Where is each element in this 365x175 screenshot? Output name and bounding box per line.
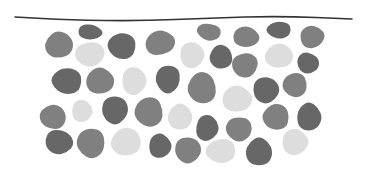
particle-medium xyxy=(263,104,289,130)
particle-dark xyxy=(246,138,272,166)
particle-light xyxy=(74,41,107,69)
particle-light xyxy=(205,138,237,164)
particle-medium xyxy=(175,137,201,163)
particle-dark xyxy=(293,49,322,77)
particle-medium xyxy=(185,70,218,106)
particle-medium xyxy=(43,29,75,59)
particle-light xyxy=(122,67,146,95)
diagram-canvas xyxy=(0,0,365,175)
particle-group xyxy=(37,22,326,166)
particle-light xyxy=(109,125,143,157)
particle-medium xyxy=(229,50,262,82)
particle-dark xyxy=(266,22,290,39)
surface-line xyxy=(15,17,352,21)
particle-medium xyxy=(281,71,309,99)
particle-dark xyxy=(207,42,235,71)
particle-light xyxy=(223,86,253,112)
particle-medium xyxy=(37,102,68,132)
particle-medium xyxy=(226,117,252,141)
particle-medium xyxy=(233,25,261,48)
particle-medium xyxy=(132,95,165,129)
particle-medium xyxy=(195,22,222,43)
particle-light xyxy=(264,42,294,68)
particle-dark xyxy=(194,113,220,143)
particle-light xyxy=(168,104,192,130)
particle-dark xyxy=(102,97,128,125)
particle-dark xyxy=(78,24,103,41)
particle-dark xyxy=(50,67,82,95)
particle-light xyxy=(72,100,92,122)
particle-medium xyxy=(77,129,105,159)
particle-dark xyxy=(44,128,76,157)
particle-medium xyxy=(85,66,115,94)
particle-light xyxy=(180,42,204,68)
particle-dark xyxy=(149,134,171,158)
particle-dark xyxy=(155,65,181,95)
particle-medium xyxy=(299,24,327,50)
sediment-diagram xyxy=(0,0,365,175)
particle-dark xyxy=(253,77,279,103)
particle-dark xyxy=(106,31,138,61)
particle-dark xyxy=(297,103,321,131)
particle-medium xyxy=(143,28,177,58)
particle-light xyxy=(283,129,309,155)
